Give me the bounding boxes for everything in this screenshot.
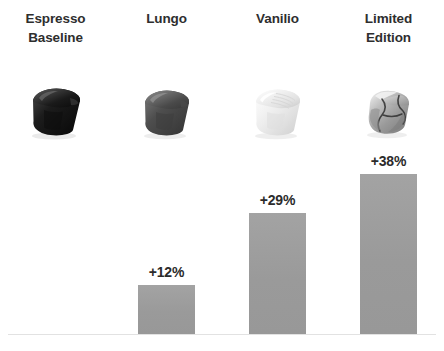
capsule-image-limited-edition — [333, 78, 444, 140]
column-header-line2: Edition — [333, 28, 444, 47]
column-header-espresso-baseline: Espresso Baseline — [0, 9, 111, 47]
bar-area-espresso-baseline — [0, 144, 111, 334]
bar-column-espresso-baseline[interactable] — [27, 144, 84, 334]
column-header-line1: Espresso — [26, 11, 86, 26]
chart-column-espresso-baseline: Espresso Baseline — [0, 0, 111, 351]
bar-lungo[interactable] — [138, 285, 195, 334]
coffee-capsule-limited-edition-icon — [359, 86, 419, 140]
chart-columns: Espresso Baseline — [0, 0, 444, 351]
bar-value-vanilio: +29% — [260, 192, 295, 208]
capsule-image-lungo — [111, 78, 222, 140]
coffee-capsule-espresso-icon — [23, 84, 89, 140]
bar-column-lungo[interactable]: +12% — [138, 144, 195, 334]
column-header-line2: Baseline — [0, 28, 111, 47]
bar-area-lungo: +12% — [111, 144, 222, 334]
column-header-line1: Limited — [365, 11, 412, 26]
column-header-lungo: Lungo — [111, 9, 222, 28]
capsule-comparison-chart: Espresso Baseline — [0, 0, 444, 351]
column-header-limited-edition: Limited Edition — [333, 9, 444, 47]
capsule-image-vanilio — [222, 78, 333, 140]
chart-column-vanilio: Vanilio — [222, 0, 333, 351]
bar-area-limited-edition: +38% — [333, 144, 444, 334]
bar-area-vanilio: +29% — [222, 144, 333, 334]
bar-column-limited-edition[interactable]: +38% — [360, 144, 417, 334]
column-header-line1: Vanilio — [256, 11, 299, 26]
column-header-vanilio: Vanilio — [222, 9, 333, 28]
coffee-capsule-vanilio-icon — [246, 85, 310, 140]
bar-value-lungo: +12% — [149, 264, 184, 280]
bar-vanilio[interactable] — [249, 213, 306, 334]
coffee-capsule-lungo-icon — [136, 86, 198, 140]
capsule-image-espresso-baseline — [0, 78, 111, 140]
chart-column-lungo: Lungo — [111, 0, 222, 351]
bar-column-vanilio[interactable]: +29% — [249, 144, 306, 334]
chart-baseline-axis — [8, 334, 436, 335]
bar-value-limited-edition: +38% — [371, 153, 406, 169]
column-header-line1: Lungo — [146, 11, 187, 26]
chart-column-limited-edition: Limited Edition — [333, 0, 444, 351]
bar-limited-edition[interactable] — [360, 174, 417, 334]
